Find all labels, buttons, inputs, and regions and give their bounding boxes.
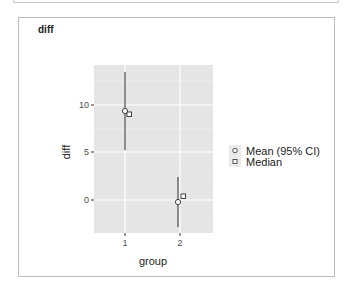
x-tick-1: 1 (122, 238, 127, 248)
y-tick-0: 0 (84, 195, 89, 205)
y-tick-5: 5 (84, 147, 89, 157)
median-point-group-1 (127, 112, 132, 117)
legend-circle-icon (233, 148, 238, 153)
x-tick-2: 2 (177, 238, 182, 248)
median-point-group-2 (181, 194, 186, 199)
legend-square-icon (233, 160, 237, 164)
y-tick-10: 10 (79, 100, 89, 110)
plot-panel (94, 65, 213, 233)
x-axis-title: group (139, 255, 167, 267)
mean-point-group-2 (175, 199, 180, 204)
y-axis-title: diff (60, 144, 72, 159)
legend: Mean (95% CI) Median (229, 145, 320, 168)
legend-label-median: Median (246, 156, 282, 168)
chart: 10 5 0 1 2 group diff Mean (95% CI) Medi… (0, 0, 349, 296)
